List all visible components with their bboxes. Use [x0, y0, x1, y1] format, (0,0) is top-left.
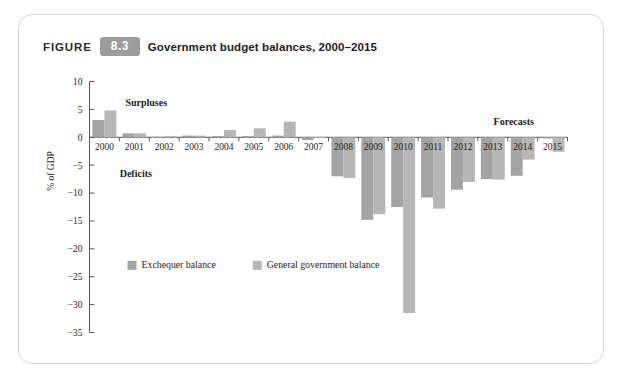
y-tick-label: −20 — [68, 244, 83, 254]
bar — [92, 120, 104, 137]
x-tick-label: 2002 — [155, 142, 174, 152]
bar — [302, 137, 314, 140]
y-tick-label: −35 — [68, 328, 83, 338]
legend-swatch — [128, 261, 137, 270]
bar — [134, 133, 146, 137]
x-tick-label: 2005 — [244, 142, 263, 152]
bar — [122, 133, 134, 137]
bar — [152, 137, 164, 138]
annotation-deficits: Deficits — [120, 168, 152, 179]
chart-legend: Exchequer balanceGeneral government bala… — [128, 259, 381, 270]
y-tick-label: 10 — [73, 77, 83, 87]
bar — [254, 128, 266, 137]
bar — [224, 130, 236, 137]
bar — [314, 137, 326, 138]
legend-label: Exchequer balance — [142, 259, 217, 270]
bar — [194, 136, 206, 138]
x-tick-label: 2003 — [185, 142, 204, 152]
bar — [403, 137, 415, 313]
y-tick-label: −15 — [68, 216, 83, 226]
y-tick-label: 0 — [78, 133, 83, 143]
x-tick-label: 2000 — [95, 142, 114, 152]
chart-svg: 1050−5−10−15−20−25−30−35 200020012002200… — [19, 15, 603, 363]
bar — [284, 122, 296, 138]
legend-swatch — [253, 261, 262, 270]
annotation-forecasts: Forecasts — [494, 116, 534, 127]
x-tick-label: 2011 — [424, 142, 443, 152]
y-tick-label: −5 — [72, 161, 82, 171]
y-axis-title: % of GDP — [46, 151, 56, 191]
bar — [212, 136, 224, 137]
y-tick-label: −10 — [68, 188, 83, 198]
y-axis-ticks: 1050−5−10−15−20−25−30−35 — [68, 77, 95, 338]
chart-plot-area: 1050−5−10−15−20−25−30−35 200020012002200… — [19, 15, 603, 363]
x-tick-label: 2009 — [364, 142, 383, 152]
x-tick-label: 2012 — [453, 142, 472, 152]
bar — [182, 136, 194, 138]
x-tick-label: 2007 — [304, 142, 323, 152]
x-tick-label: 2006 — [274, 142, 293, 152]
legend-label: General government balance — [267, 259, 380, 270]
bar — [164, 136, 176, 137]
bar — [242, 136, 254, 137]
annotation-surpluses: Surpluses — [125, 97, 167, 108]
y-axis-title-label: % of GDP — [46, 151, 56, 191]
x-tick-label: 2008 — [334, 142, 353, 152]
figure-card: FIGURE 8.3 Government budget balances, 2… — [18, 14, 604, 364]
x-tick-label: 2004 — [214, 142, 233, 152]
x-tick-label: 2015 — [543, 142, 562, 152]
bar — [272, 136, 284, 138]
x-tick-label: 2001 — [125, 142, 144, 152]
y-tick-label: −25 — [68, 272, 83, 282]
x-tick-label: 2010 — [394, 142, 413, 152]
x-tick-label: 2013 — [483, 142, 502, 152]
bar — [541, 137, 553, 138]
y-tick-label: −30 — [68, 300, 83, 310]
y-tick-label: 5 — [78, 105, 83, 115]
bar — [104, 111, 116, 138]
x-tick-label: 2014 — [513, 142, 532, 152]
